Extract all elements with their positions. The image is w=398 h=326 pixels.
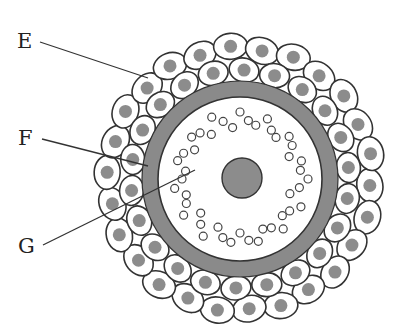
- cell-nucleus: [194, 49, 207, 62]
- granule: [267, 126, 275, 134]
- granule: [297, 203, 305, 211]
- cell-nucleus: [361, 211, 374, 224]
- cell-nucleus: [181, 292, 194, 305]
- cell-nucleus: [345, 239, 358, 252]
- cell-nucleus: [260, 278, 273, 291]
- granule: [245, 236, 253, 244]
- cell-nucleus: [363, 179, 376, 192]
- granule: [219, 234, 227, 242]
- follicle-illustration: [0, 0, 398, 326]
- granule: [254, 237, 262, 245]
- granule: [286, 190, 294, 198]
- cell-nucleus: [164, 59, 177, 72]
- granule: [191, 146, 199, 154]
- cell-nucleus: [154, 98, 167, 111]
- pointer-line-e: [40, 42, 148, 78]
- cell-nucleus: [132, 254, 145, 267]
- label-e: E: [17, 31, 32, 52]
- cell-nucleus: [342, 161, 355, 174]
- granule: [171, 184, 179, 192]
- cell-nucleus: [126, 153, 139, 166]
- cell-nucleus: [224, 40, 237, 53]
- cell-nucleus: [302, 283, 315, 296]
- granule: [252, 121, 260, 129]
- cell-nucleus: [318, 104, 331, 117]
- follicle-cell: [213, 32, 249, 60]
- cell-nucleus: [113, 228, 126, 241]
- granule: [297, 157, 305, 165]
- cell-nucleus: [149, 241, 162, 254]
- granule: [182, 191, 190, 199]
- granule: [285, 132, 293, 140]
- cell-nucleus: [153, 278, 166, 291]
- granule: [227, 238, 235, 246]
- cell-nucleus: [341, 192, 354, 205]
- granule: [236, 108, 244, 116]
- granule: [285, 153, 293, 161]
- granule: [229, 124, 237, 132]
- cell-nucleus: [125, 184, 138, 197]
- cell-nucleus: [337, 89, 350, 102]
- granule: [288, 141, 296, 149]
- cell-nucleus: [207, 67, 220, 80]
- granule: [197, 220, 205, 228]
- granule: [286, 207, 294, 215]
- cell-nucleus: [329, 266, 342, 279]
- granule: [174, 157, 182, 165]
- granule: [180, 149, 188, 157]
- granule: [263, 115, 271, 123]
- granule: [188, 133, 196, 141]
- label-g: G: [18, 236, 35, 257]
- granule: [236, 229, 244, 237]
- granule: [304, 175, 312, 183]
- cell-nucleus: [171, 262, 184, 275]
- label-f: F: [18, 128, 33, 149]
- cell-nucleus: [199, 276, 212, 289]
- cell-nucleus: [289, 266, 302, 279]
- cell-nucleus: [109, 135, 122, 148]
- granule: [208, 113, 216, 121]
- oocyte-nucleus: [222, 158, 262, 198]
- cell-nucleus: [331, 221, 344, 234]
- cell-nucleus: [268, 69, 281, 82]
- cell-nucleus: [133, 214, 146, 227]
- cell-nucleus: [287, 51, 300, 64]
- cell-nucleus: [119, 105, 132, 118]
- granule: [295, 184, 303, 192]
- cell-nucleus: [238, 64, 251, 77]
- granule: [182, 200, 190, 208]
- cell-nucleus: [334, 131, 347, 144]
- cell-nucleus: [296, 83, 309, 96]
- cell-nucleus: [274, 299, 287, 312]
- granule: [279, 225, 287, 233]
- cell-nucleus: [178, 79, 191, 92]
- granule: [196, 129, 204, 137]
- cell-nucleus: [229, 281, 242, 294]
- cell-nucleus: [256, 44, 269, 57]
- cell-nucleus: [101, 166, 114, 179]
- cell-nucleus: [136, 124, 149, 137]
- cell-nucleus: [243, 302, 256, 315]
- granule: [219, 117, 227, 125]
- follicle-diagram: E F G: [0, 0, 398, 326]
- granule: [278, 212, 286, 220]
- granule: [296, 166, 304, 174]
- granule: [197, 209, 205, 217]
- granule: [259, 225, 267, 233]
- granule: [207, 130, 215, 138]
- cell-nucleus: [364, 147, 377, 160]
- cell-nucleus: [313, 247, 326, 260]
- granule: [180, 211, 188, 219]
- cell-nucleus: [313, 69, 326, 82]
- granule: [199, 232, 207, 240]
- follicle-cell: [93, 155, 121, 190]
- granule: [214, 223, 222, 231]
- cell-nucleus: [351, 118, 364, 131]
- granule: [272, 133, 280, 141]
- granule: [244, 117, 252, 125]
- cell-nucleus: [211, 304, 224, 317]
- cell-nucleus: [141, 82, 154, 95]
- granule: [267, 224, 275, 232]
